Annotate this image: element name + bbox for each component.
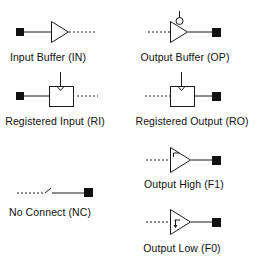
pad-icon [212, 218, 221, 227]
pad-icon [16, 28, 24, 36]
pad-icon [84, 188, 93, 197]
output-buffer-label: Output Buffer (OP) [140, 51, 229, 63]
registered-input-icon [16, 72, 98, 107]
symbol-diagram [0, 0, 261, 265]
registered-output-icon [145, 72, 221, 107]
input-buffer-label: Input Buffer (IN) [10, 51, 86, 63]
output-high-icon [146, 148, 221, 173]
no-connect-icon [17, 188, 93, 197]
pad-icon [212, 156, 221, 165]
output-high-label: Output High (F1) [144, 178, 224, 190]
output-buffer-icon [148, 11, 221, 43]
input-buffer-icon [16, 22, 95, 43]
pad-icon [212, 28, 221, 37]
open-switch-icon [45, 188, 51, 193]
pad-icon [16, 92, 24, 100]
output-low-label: Output Low (F0) [143, 242, 220, 254]
no-connect-label: No Connect (NC) [9, 206, 91, 218]
registered-input-label: Registered Input (RI) [5, 115, 105, 127]
output-low-icon [146, 210, 221, 235]
enable-bubble-icon [176, 18, 183, 25]
registered-output-label: Registered Output (RO) [135, 115, 248, 127]
pad-icon [212, 92, 221, 101]
